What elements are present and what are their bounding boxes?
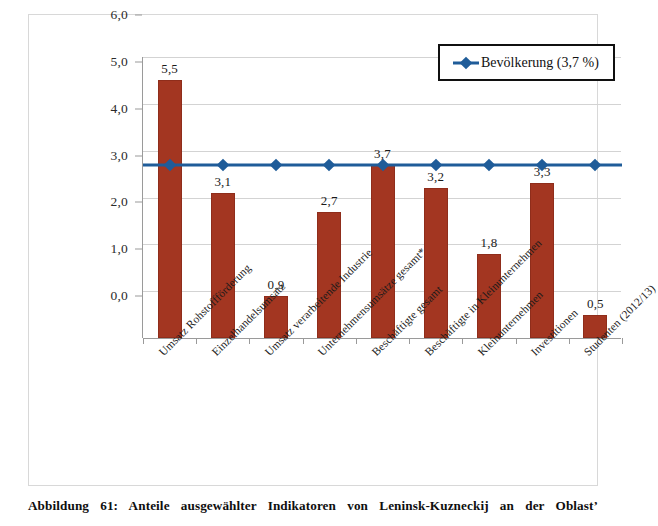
- x-axis-tick: [249, 338, 250, 344]
- y-axis-tick-mark: [135, 249, 142, 250]
- x-axis-tick: [569, 338, 570, 344]
- y-axis: 0,01,02,03,04,05,06,0: [57, 15, 142, 296]
- x-axis-tick: [143, 338, 144, 344]
- x-axis-tick: [516, 338, 517, 344]
- y-axis-tick-label: 1,0: [111, 241, 128, 257]
- plot-area: 5,53,10,92,73,73,21,83,30,5: [142, 57, 621, 338]
- y-axis-tick-label: 5,0: [111, 54, 128, 70]
- y-axis-tick-mark: [135, 15, 142, 16]
- y-axis-tick-mark: [135, 61, 142, 62]
- y-axis-tick-label: 3,0: [111, 148, 128, 164]
- y-axis-tick-mark: [135, 155, 142, 156]
- x-axis-ticks: [143, 57, 621, 338]
- y-axis-tick-mark: [135, 296, 142, 297]
- x-axis-tick: [409, 338, 410, 344]
- y-axis-tick-label: 2,0: [111, 194, 128, 210]
- x-axis-tick: [303, 338, 304, 344]
- figure-caption: Abbildung 61: Anteile ausgewählter Indik…: [28, 498, 598, 515]
- x-axis-tick: [462, 338, 463, 344]
- legend-line-marker-icon: [453, 58, 479, 68]
- legend-label: Bevölkerung (3,7 %): [481, 55, 599, 71]
- y-axis-tick-label: 4,0: [111, 101, 128, 117]
- gridline: [143, 338, 621, 339]
- y-axis-tick-label: 0,0: [111, 288, 128, 304]
- x-axis-tick: [196, 338, 197, 344]
- x-axis-tick: [356, 338, 357, 344]
- figure-frame: 0,01,02,03,04,05,06,0 5,53,10,92,73,73,2…: [28, 14, 598, 486]
- y-axis-tick-mark: [135, 108, 142, 109]
- y-axis-tick-mark: [135, 202, 142, 203]
- legend[interactable]: Bevölkerung (3,7 %): [438, 44, 615, 81]
- y-axis-tick-label: 6,0: [111, 7, 128, 23]
- x-axis-tick: [622, 338, 623, 344]
